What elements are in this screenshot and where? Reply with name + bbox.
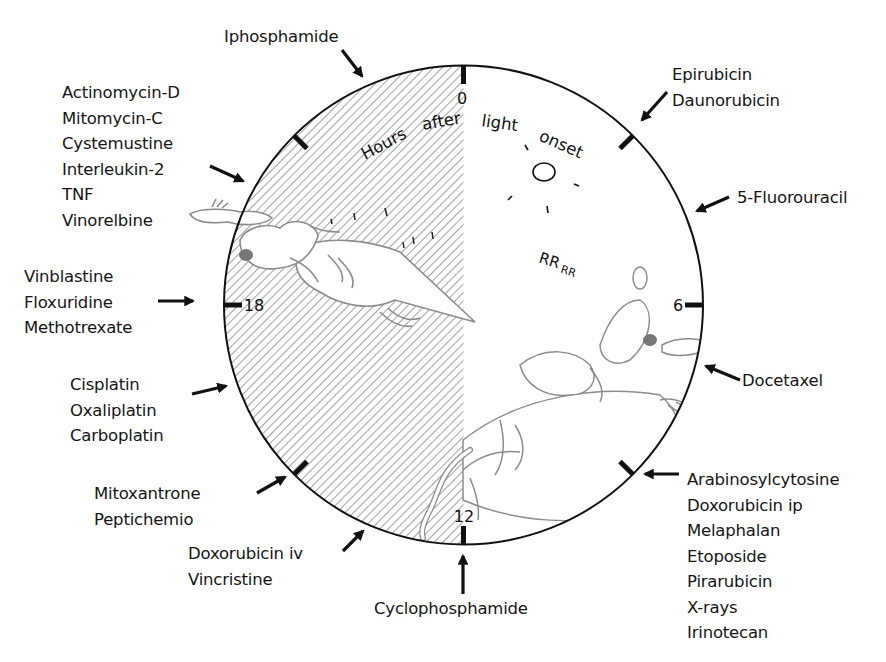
drug-label: Interleukin-2 <box>62 157 180 183</box>
drug-label: TNF <box>62 182 180 208</box>
arrow-iphosphamide <box>342 50 362 76</box>
drug-label: Peptichemio <box>94 507 200 533</box>
drug-label: Epirubicin <box>672 62 780 88</box>
hour-label-0: 0 <box>457 89 467 108</box>
drug-label: Actinomycin-D <box>62 80 180 106</box>
drug-label: Oxaliplatin <box>70 398 163 424</box>
drug-label: Daunorubicin <box>672 88 780 114</box>
drug-label: Cystemustine <box>62 131 180 157</box>
drug-label: Melaphalan <box>687 518 839 544</box>
arrow-cisplatin <box>192 386 226 394</box>
snore-text: RR RR <box>536 249 580 280</box>
drug-label: Irinotecan <box>687 620 839 646</box>
drug-label: Doxorubicin ip <box>687 493 839 519</box>
drug-label: Cisplatin <box>70 372 163 398</box>
drug-group-arabinosylcytosine: Arabinosylcytosine Doxorubicin ip Melaph… <box>687 467 839 646</box>
drug-label: Floxuridine <box>24 290 132 316</box>
drug-label: Mitoxantrone <box>94 481 200 507</box>
arrow-epirubicin <box>642 92 667 120</box>
drug-group-actinomycin: Actinomycin-D Mitomycin-C Cystemustine I… <box>62 80 180 233</box>
arrow-doxorubicin-iv <box>343 531 363 551</box>
drug-group-cisplatin: Cisplatin Oxaliplatin Carboplatin <box>70 372 163 449</box>
drug-label: Etoposide <box>687 544 839 570</box>
arrow-docetaxel <box>706 366 740 380</box>
hour-label-18: 18 <box>244 296 264 315</box>
drug-label: Mitomycin-C <box>62 106 180 132</box>
drug-label: Arabinosylcytosine <box>687 467 839 493</box>
snore-small: RR <box>559 263 578 280</box>
arrow-mitoxantrone <box>257 477 285 493</box>
drug-group-fluorouracil: 5-Fluorouracil <box>737 185 847 211</box>
axis-word-light: light <box>480 111 519 135</box>
hour-label-12: 12 <box>454 507 474 526</box>
drug-group-epirubicin: Epirubicin Daunorubicin <box>672 62 780 113</box>
drug-group-vinblastine: Vinblastine Floxuridine Methotrexate <box>24 264 132 341</box>
drug-label: Pirarubicin <box>687 569 839 595</box>
chronotherapy-clock-diagram: 0 6 12 18 Hours after light onset RR RR <box>0 0 886 662</box>
drug-label: Docetaxel <box>742 368 823 394</box>
drug-label: Vincristine <box>188 567 303 593</box>
axis-word-onset: onset <box>536 126 586 162</box>
snore-big: RR <box>537 249 562 273</box>
drug-label: Vinblastine <box>24 264 132 290</box>
drug-group-doxorubicin-iv: Doxorubicin iv Vincristine <box>188 541 303 592</box>
drug-label: Carboplatin <box>70 423 163 449</box>
drug-group-mitoxantrone: Mitoxantrone Peptichemio <box>94 481 200 532</box>
drug-label: Methotrexate <box>24 315 132 341</box>
drug-label: Vinorelbine <box>62 208 180 234</box>
drug-label: 5-Fluorouracil <box>737 185 847 211</box>
drug-label: Iphosphamide <box>224 24 338 50</box>
hour-label-6: 6 <box>673 296 683 315</box>
drug-label: Cyclophosphamide <box>374 596 528 622</box>
drug-group-docetaxel: Docetaxel <box>742 368 823 394</box>
drug-group-cyclophosphamide: Cyclophosphamide <box>374 596 528 622</box>
drug-group-iphosphamide: Iphosphamide <box>224 24 338 50</box>
drug-label: Doxorubicin iv <box>188 541 303 567</box>
drug-label: X-rays <box>687 595 839 621</box>
arrow-fluorouracil <box>697 197 729 211</box>
arrow-actinomycin <box>210 166 243 181</box>
